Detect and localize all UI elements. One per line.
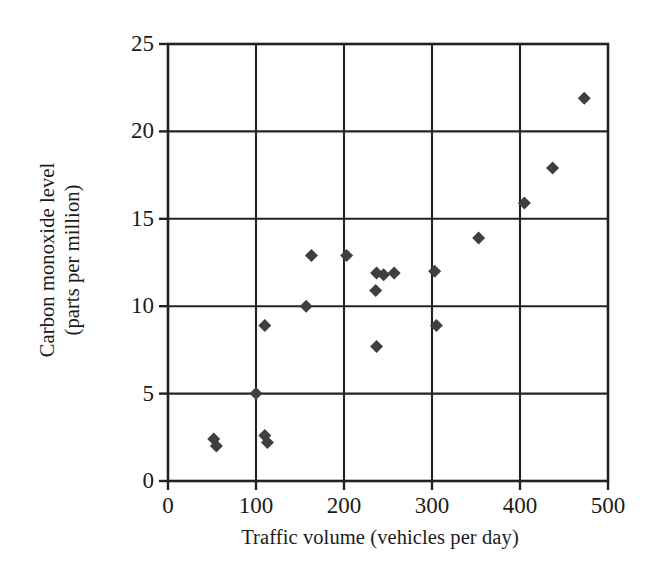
x-tick-label: 100 [221, 494, 291, 517]
data-point-marker [250, 387, 263, 400]
y-axis-title-line-2: (parts per million) [60, 163, 85, 358]
x-tick-label: 300 [397, 494, 467, 517]
data-points [207, 92, 590, 453]
y-tick-label: 25 [96, 32, 154, 55]
y-tick-label: 5 [96, 382, 154, 405]
gridlines [168, 44, 608, 481]
data-point-marker [428, 265, 441, 278]
data-point-marker [578, 92, 591, 105]
data-point-marker [305, 249, 318, 262]
plot-area [168, 44, 608, 481]
y-tick-label: 15 [96, 207, 154, 230]
data-point-marker [370, 340, 383, 353]
tick-marks [159, 44, 608, 490]
plot-canvas [168, 44, 608, 481]
y-axis-title-line-1: Carbon monoxide level [35, 163, 60, 358]
data-point-marker [472, 232, 485, 245]
x-axis-title: Traffic volume (vehicles per day) [130, 526, 630, 549]
data-point-marker [546, 162, 559, 175]
data-point-marker [300, 300, 313, 313]
data-point-marker [258, 319, 271, 332]
y-axis-title: Carbon monoxide level (parts per million… [0, 0, 120, 520]
x-tick-label: 500 [573, 494, 643, 517]
data-point-marker [369, 284, 382, 297]
y-tick-label: 10 [96, 294, 154, 317]
x-tick-label: 0 [133, 494, 203, 517]
data-point-marker [340, 249, 353, 262]
plot-border [168, 44, 608, 481]
x-tick-label: 400 [485, 494, 555, 517]
y-tick-label: 20 [96, 119, 154, 142]
y-tick-label: 0 [96, 469, 154, 492]
data-point-marker [388, 266, 401, 279]
axis-frame [168, 44, 608, 481]
y-axis-title-text: Carbon monoxide level (parts per million… [35, 163, 85, 358]
scatter-plot-figure: Carbon monoxide level (parts per million… [0, 0, 645, 570]
x-tick-label: 200 [309, 494, 379, 517]
